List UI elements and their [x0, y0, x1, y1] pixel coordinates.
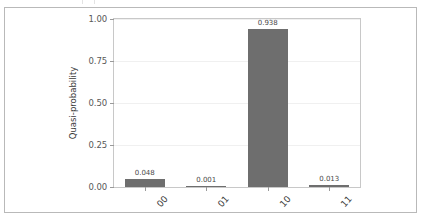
- bar-value-label: 0.048: [135, 169, 155, 177]
- plot-area: 0.000.250.500.751.000.048000.001010.9381…: [113, 18, 361, 188]
- screenshot-canvas: Quasi-probability 0.000.250.500.751.000.…: [0, 0, 422, 219]
- y-axis-title-text: Quasi-probability: [67, 18, 79, 188]
- figure-frame: Quasi-probability 0.000.250.500.751.000.…: [4, 7, 417, 213]
- x-axis-tick-mark: [206, 187, 207, 191]
- x-axis-tick-label: 11: [339, 194, 354, 209]
- y-axis-tick-mark: [110, 103, 114, 104]
- gridline: [114, 19, 360, 20]
- x-axis-tick-label: 01: [216, 194, 231, 209]
- artifact-tick-right: [94, 0, 95, 4]
- x-axis-tick-mark: [329, 187, 330, 191]
- y-axis-tick-label: 1.00: [88, 14, 107, 24]
- y-axis-tick-label: 0.50: [88, 98, 107, 108]
- gridline: [114, 61, 360, 62]
- x-axis-tick-mark: [268, 187, 269, 191]
- gridline: [114, 145, 360, 146]
- x-axis-tick-label: 10: [278, 194, 293, 209]
- y-axis-tick-mark: [110, 19, 114, 20]
- y-axis-title: Quasi-probability: [67, 0, 79, 18]
- bar-value-label: 0.013: [319, 175, 339, 183]
- y-axis-tick-mark: [110, 61, 114, 62]
- bar: [248, 29, 288, 187]
- y-axis-tick-label: 0.75: [88, 56, 107, 66]
- x-axis-tick-mark: [145, 187, 146, 191]
- bar-value-label: 0.001: [196, 176, 216, 184]
- y-axis-tick-label: 0.25: [88, 140, 107, 150]
- y-axis-tick-label: 0.00: [88, 182, 107, 192]
- y-axis-tick-mark: [110, 187, 114, 188]
- y-axis-tick-mark: [110, 145, 114, 146]
- x-axis-tick-label: 00: [155, 194, 170, 209]
- gridline: [114, 103, 360, 104]
- artifact-tick-left: [82, 0, 83, 4]
- bar: [125, 179, 165, 187]
- bar-value-label: 0.938: [258, 19, 278, 27]
